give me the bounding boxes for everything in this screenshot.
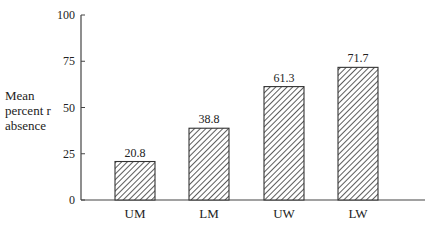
value-label: 38.8 bbox=[199, 112, 220, 126]
category-label: UM bbox=[125, 206, 146, 221]
y-tick-label: 25 bbox=[63, 147, 75, 161]
bars: 20.838.861.371.7 bbox=[115, 51, 378, 200]
y-tick-label: 75 bbox=[63, 54, 75, 68]
bar-uw bbox=[264, 87, 304, 200]
bar-lw bbox=[338, 67, 378, 200]
category-label: LW bbox=[348, 206, 368, 221]
value-label: 20.8 bbox=[125, 146, 146, 160]
y-axis: 0255075100 bbox=[57, 8, 85, 207]
x-axis: UMLMUWLW bbox=[81, 200, 425, 221]
value-label: 61.3 bbox=[274, 71, 295, 85]
y-tick-label: 0 bbox=[69, 193, 75, 207]
bar-lm bbox=[189, 128, 229, 200]
category-label: UW bbox=[273, 206, 295, 221]
y-tick-label: 100 bbox=[57, 8, 75, 22]
bar-um bbox=[115, 162, 155, 200]
bar-chart: 0255075100 UMLMUWLW 20.838.861.371.7 bbox=[0, 0, 433, 233]
value-label: 71.7 bbox=[348, 51, 369, 65]
y-tick-label: 50 bbox=[63, 101, 75, 115]
category-label: LM bbox=[199, 206, 219, 221]
